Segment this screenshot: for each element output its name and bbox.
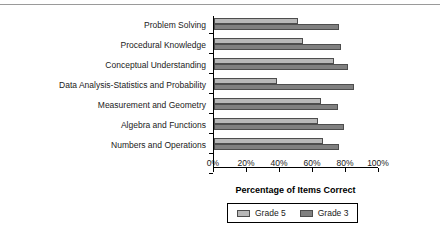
x-axis-tick (213, 168, 214, 172)
legend-swatch-grade-3 (300, 210, 313, 217)
x-axis-tick-label: 20% (237, 158, 254, 168)
bar-group: Numbers and Operations (213, 137, 378, 153)
bar-group: Data Analysis-Statistics and Probability (213, 77, 378, 93)
legend-label-grade-5: Grade 5 (255, 208, 286, 218)
bar-grade-3 (214, 44, 341, 50)
bar-grade-3 (214, 104, 338, 110)
top-divider-rule (0, 4, 440, 5)
category-label: Problem Solving (144, 20, 206, 30)
category-label: Procedural Knowledge (120, 40, 206, 50)
bar-grade-3 (214, 64, 348, 70)
bar-group: Measurement and Geometry (213, 97, 378, 113)
x-axis-tick (345, 168, 346, 172)
y-axis-tick (209, 113, 213, 114)
x-axis-tick-label: 0% (207, 158, 219, 168)
x-axis-tick (279, 168, 280, 172)
y-axis-tick (209, 73, 213, 74)
bar-group: Procedural Knowledge (213, 37, 378, 53)
x-axis-title: Percentage of Items Correct (213, 185, 378, 195)
category-label: Numbers and Operations (111, 140, 206, 150)
plot-area: Problem SolvingProcedural KnowledgeConce… (213, 16, 378, 168)
y-axis-tick (209, 153, 213, 154)
bar-grade-3 (214, 84, 354, 90)
bar-grade-3 (214, 124, 344, 130)
y-axis-tick (209, 133, 213, 134)
x-axis-tick (312, 168, 313, 172)
category-label: Data Analysis-Statistics and Probability (59, 80, 206, 90)
y-axis-tick (209, 173, 213, 174)
x-axis-tick-label: 100% (367, 158, 389, 168)
category-label: Algebra and Functions (121, 120, 206, 130)
legend-entry-grade-5: Grade 5 (237, 208, 286, 218)
bar-grade-3 (214, 144, 339, 150)
legend-label-grade-3: Grade 3 (318, 208, 349, 218)
legend-swatch-grade-5 (237, 210, 250, 217)
category-label: Measurement and Geometry (98, 100, 206, 110)
chart-legend: Grade 5 Grade 3 (227, 203, 358, 223)
y-axis-tick (209, 33, 213, 34)
bar-group: Problem Solving (213, 17, 378, 33)
bar-group: Conceptual Understanding (213, 57, 378, 73)
bar-group: Algebra and Functions (213, 117, 378, 133)
x-axis-tick-label: 80% (336, 158, 353, 168)
x-axis-tick (246, 168, 247, 172)
category-label: Conceptual Understanding (105, 60, 206, 70)
y-axis-tick (209, 93, 213, 94)
legend-entry-grade-3: Grade 3 (300, 208, 349, 218)
x-axis-tick-label: 40% (270, 158, 287, 168)
x-axis-tick (378, 168, 379, 172)
bar-chart-figure: Problem SolvingProcedural KnowledgeConce… (0, 0, 440, 249)
x-axis-tick-label: 60% (303, 158, 320, 168)
bar-grade-3 (214, 24, 339, 30)
y-axis-tick (209, 53, 213, 54)
